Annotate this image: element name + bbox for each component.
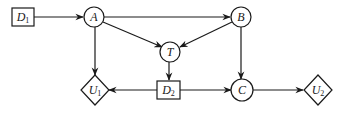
node-u2: U2 bbox=[304, 75, 332, 105]
node-b: B bbox=[231, 7, 251, 27]
svg-text:C: C bbox=[238, 83, 247, 97]
edge-b-t bbox=[180, 22, 232, 47]
node-u1: U1 bbox=[81, 75, 109, 105]
node-c: C bbox=[231, 79, 253, 101]
node-t: T bbox=[160, 42, 180, 62]
node-d1: D1 bbox=[12, 8, 34, 26]
node-a: A bbox=[84, 7, 104, 27]
edge-a-t bbox=[103, 22, 162, 47]
svg-text:A: A bbox=[89, 10, 98, 24]
influence-diagram: D1 A B T U1 D2 C U2 bbox=[0, 0, 337, 113]
svg-text:B: B bbox=[237, 10, 245, 24]
node-d2: D2 bbox=[157, 81, 180, 99]
